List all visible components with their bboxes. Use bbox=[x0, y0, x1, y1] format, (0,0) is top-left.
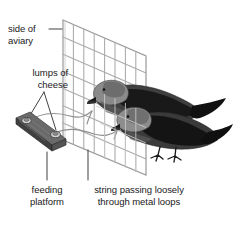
string-lower bbox=[57, 129, 117, 135]
label-string-passing-loosely-through-metal-loops: string passing loosely through metal loo… bbox=[78, 184, 200, 207]
label-lumps-of-cheese: lumps of cheese bbox=[6, 67, 68, 90]
cheese-lump-lower bbox=[51, 131, 61, 137]
crow-lower bbox=[111, 107, 233, 162]
label-side-of-aviary: side of aviary bbox=[8, 23, 36, 46]
leader-lines bbox=[26, 29, 88, 180]
label-feeding-platform: feeding platform bbox=[18, 184, 76, 207]
cheese-lump-upper bbox=[22, 117, 31, 123]
